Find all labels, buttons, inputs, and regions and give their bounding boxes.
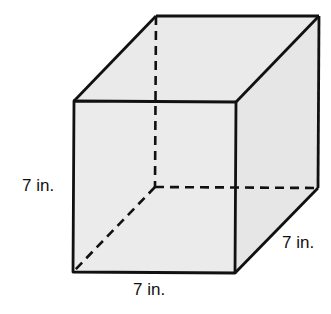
depth-label: 7 in. (282, 234, 314, 251)
height-label: 7 in. (22, 177, 54, 194)
cube-diagram (0, 0, 331, 314)
edge-back-right (318, 16, 319, 188)
width-label: 7 in. (133, 281, 165, 298)
